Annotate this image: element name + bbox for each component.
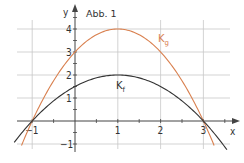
grid [17, 20, 230, 149]
curve-label-g: Kg [158, 33, 169, 47]
x-axis-arrow-icon [232, 118, 240, 124]
axes [17, 4, 240, 152]
y-tick-label: −1 [60, 139, 73, 150]
x-axis-label: x [230, 126, 236, 137]
y-tick-label: 4 [66, 24, 72, 35]
x-tick-label: 2 [158, 125, 164, 136]
y-axis-arrow-icon [72, 4, 78, 12]
y-axis-label: y [63, 7, 69, 18]
ticks: −1123−11234 [25, 18, 225, 151]
chart: −1123−11234 y x Abb. 1 Kg Kf [0, 0, 244, 163]
labels: y x Abb. 1 Kg Kf [63, 7, 236, 137]
chart-title: Abb. 1 [86, 8, 117, 19]
y-tick-label: 2 [66, 70, 72, 81]
y-tick-label: 1 [66, 93, 72, 104]
x-tick-label: 3 [200, 125, 206, 136]
x-tick-label: 1 [115, 125, 121, 136]
